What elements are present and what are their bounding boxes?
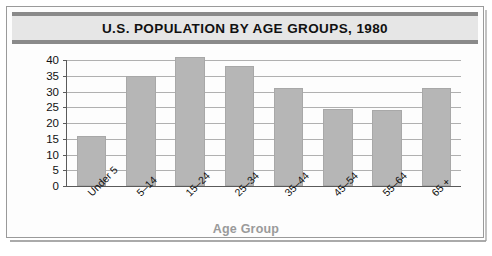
y-axis-tick-label: 15 xyxy=(46,133,59,145)
page-edge-shadow-right xyxy=(485,10,487,241)
y-axis-tick-label: 35 xyxy=(46,70,59,82)
y-axis-title: Population (in millions) xyxy=(0,22,12,144)
bar-series xyxy=(67,60,461,186)
y-axis-tick-label: 30 xyxy=(46,86,59,98)
bar xyxy=(126,76,156,186)
page-edge-shadow-bottom xyxy=(10,240,486,242)
plot-area: 0510152025303540 xyxy=(66,60,461,187)
y-axis-tick-label: 0 xyxy=(53,180,59,192)
y-axis-tick-label: 25 xyxy=(46,101,59,113)
bar xyxy=(225,66,255,186)
y-axis-tick xyxy=(63,186,67,187)
bar xyxy=(175,57,205,186)
x-axis-title: Age Group xyxy=(0,222,492,236)
y-axis-tick-label: 10 xyxy=(46,149,59,161)
chart-title-banner: U.S. POPULATION BY AGE GROUPS, 1980 xyxy=(12,12,478,44)
chart-title: U.S. POPULATION BY AGE GROUPS, 1980 xyxy=(102,21,388,36)
chart-figure: U.S. POPULATION BY AGE GROUPS, 1980 Popu… xyxy=(0,0,492,256)
y-axis-tick-label: 40 xyxy=(46,54,59,66)
bar xyxy=(422,88,452,186)
y-axis-tick-label: 20 xyxy=(46,117,59,129)
y-axis-tick-label: 5 xyxy=(53,164,59,176)
